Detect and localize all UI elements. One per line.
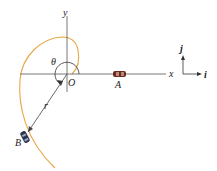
x-axis-label: x <box>168 68 174 79</box>
unit-i-label: i <box>204 69 207 80</box>
car-a-icon <box>113 71 126 77</box>
point-b-label: B <box>15 137 21 148</box>
origin-label: O <box>68 77 75 88</box>
y-axis-label: y <box>62 7 68 18</box>
radius-label: r <box>44 100 48 111</box>
kinematics-diagram: y x O θ r A B j i <box>0 0 217 171</box>
unit-j-arrow-icon <box>181 55 185 60</box>
theta-label: θ <box>51 56 56 67</box>
spiral-path <box>20 37 79 168</box>
radius-arrow-icon <box>28 126 33 132</box>
unit-i-arrow-icon <box>197 72 202 76</box>
point-a-label: A <box>114 79 122 90</box>
unit-j-label: j <box>178 43 183 54</box>
